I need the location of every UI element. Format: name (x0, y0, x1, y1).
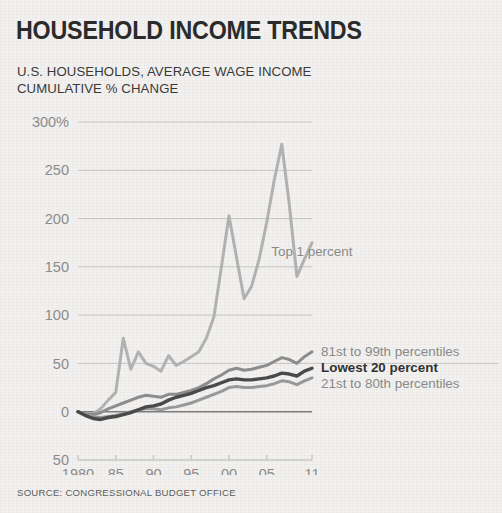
x-axis-tick-label: 95 (183, 466, 199, 475)
page-subtitle: U.S. HOUSEHOLDS, AVERAGE WAGE INCOME CUM… (17, 64, 312, 97)
series-label: Lowest 20 percent (321, 360, 438, 375)
y-axis-tick-label: 150 (45, 259, 69, 275)
series-label: Top 1 percent (271, 244, 352, 259)
y-axis-tick-label: 200 (45, 211, 69, 227)
chart-series-labels: Top 1 percent81st to 99th percentilesLow… (271, 244, 460, 390)
page-title: HOUSEHOLD INCOME TRENDS (16, 16, 362, 45)
x-axis-tick-label: 90 (145, 466, 161, 475)
infographic-page: HOUSEHOLD INCOME TRENDS U.S. HOUSEHOLDS,… (0, 0, 502, 513)
y-axis-tick-label: 250 (45, 162, 69, 178)
x-axis (78, 455, 312, 460)
y-axis-tick-label: 0 (61, 404, 69, 420)
y-axis-tick-label: 100 (45, 307, 69, 323)
x-axis-tick-label: 00 (221, 466, 237, 475)
y-axis-tick-label: 300% (32, 114, 69, 130)
y-axis-tick-label: 50 (53, 356, 69, 372)
series-label: 21st to 80th percentiles (321, 376, 460, 391)
line-chart: 300%25020015010050050 1980859095000511 T… (0, 105, 502, 475)
x-axis-tick-label: 11 (304, 466, 319, 475)
source-note: SOURCE: CONGRESSIONAL BUDGET OFFICE (17, 487, 236, 498)
chart-svg: 300%25020015010050050 1980859095000511 T… (0, 105, 502, 475)
x-axis-tick-label: 05 (259, 466, 275, 475)
x-axis-tick-label: 85 (108, 466, 124, 475)
x-axis-ticks: 1980859095000511 (62, 466, 320, 475)
series-label: 81st to 99th percentiles (321, 344, 460, 359)
chart-series-lines (78, 144, 312, 419)
y-axis-ticks: 300%25020015010050050 (32, 114, 69, 468)
x-axis-tick-label: 1980 (62, 466, 94, 475)
